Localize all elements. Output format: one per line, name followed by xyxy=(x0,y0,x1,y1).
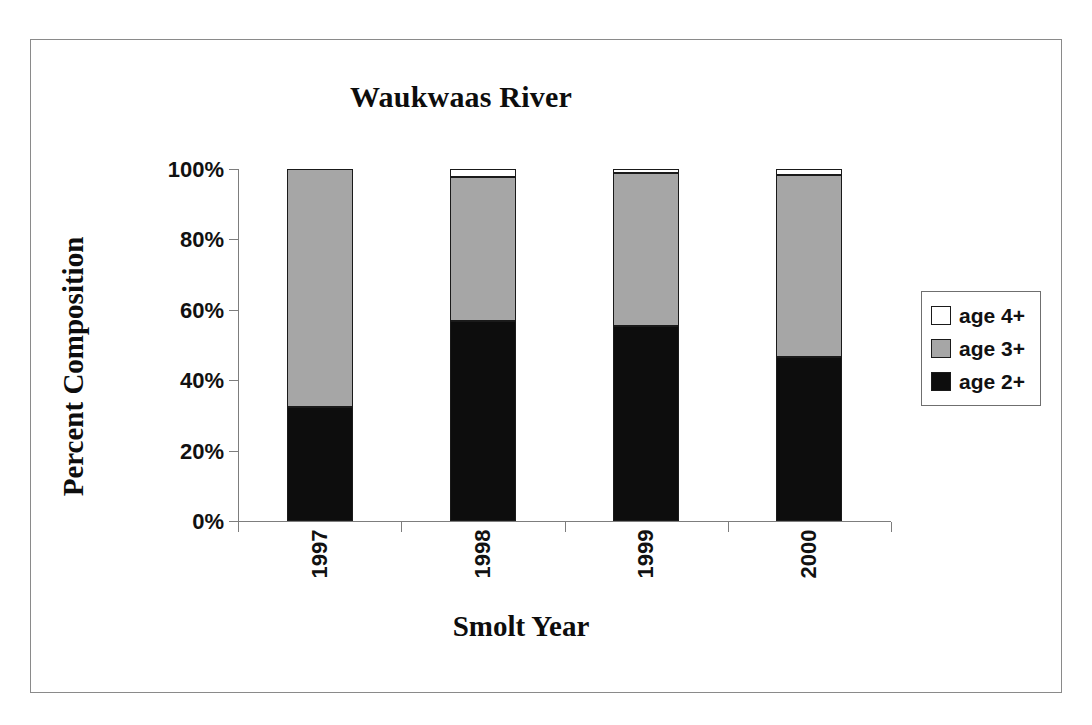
y-tick-label: 60% xyxy=(180,298,224,324)
bar-segment-age3[interactable] xyxy=(776,175,842,357)
bar-segment-age4[interactable] xyxy=(776,169,842,175)
x-tick-mark xyxy=(891,522,892,532)
bar-segment-age4[interactable] xyxy=(450,169,516,177)
y-axis-title: Percent Composition xyxy=(57,217,90,517)
bar-stack xyxy=(613,169,679,521)
legend-label: age 4+ xyxy=(959,304,1025,328)
y-tick-mark xyxy=(229,380,238,381)
bar-stack xyxy=(776,169,842,521)
x-tick-label: 2000 xyxy=(796,494,822,614)
y-tick-label: 100% xyxy=(168,157,224,183)
y-tick-label: 20% xyxy=(180,439,224,465)
chart-title: Waukwaas River xyxy=(31,80,891,114)
y-tick-label: 40% xyxy=(180,368,224,394)
bar-segment-age3[interactable] xyxy=(450,177,516,321)
x-axis-title: Smolt Year xyxy=(151,610,891,643)
y-tick-mark xyxy=(229,310,238,311)
bar-segment-age2[interactable] xyxy=(613,326,679,521)
figure-frame: Waukwaas River Percent Composition Smolt… xyxy=(30,39,1062,693)
y-tick-label: 80% xyxy=(180,227,224,253)
legend-item[interactable]: age 2+ xyxy=(931,365,1032,398)
bar-segment-age2[interactable] xyxy=(450,321,516,521)
x-tick-label: 1999 xyxy=(633,494,659,614)
bar-stack xyxy=(287,169,353,521)
y-tick-mark xyxy=(229,521,238,522)
x-tick-label: 1997 xyxy=(307,494,333,614)
bar-segment-age3[interactable] xyxy=(287,169,353,407)
legend-item[interactable]: age 3+ xyxy=(931,332,1032,365)
legend-swatch-icon xyxy=(931,306,951,325)
y-axis-line xyxy=(238,169,239,522)
bar-segment-age3[interactable] xyxy=(613,173,679,326)
legend-label: age 3+ xyxy=(959,337,1025,361)
bar-stack xyxy=(450,169,516,521)
bar-segment-age4[interactable] xyxy=(613,169,679,173)
legend: age 4+age 3+age 2+ xyxy=(921,291,1041,406)
x-tick-label: 1998 xyxy=(470,494,496,614)
y-tick-mark xyxy=(229,239,238,240)
y-tick-label: 0% xyxy=(192,509,224,535)
legend-swatch-icon xyxy=(931,339,951,358)
legend-item[interactable]: age 4+ xyxy=(931,299,1032,332)
y-tick-mark xyxy=(229,169,238,170)
x-tick-mark xyxy=(238,522,239,532)
legend-swatch-icon xyxy=(931,372,951,391)
x-tick-mark xyxy=(401,522,402,532)
y-tick-mark xyxy=(229,451,238,452)
x-tick-mark xyxy=(728,522,729,532)
legend-label: age 2+ xyxy=(959,370,1025,394)
plot-area: 0%20%40%60%80%100% 1997199819992000 xyxy=(238,169,891,521)
x-tick-mark xyxy=(565,522,566,532)
